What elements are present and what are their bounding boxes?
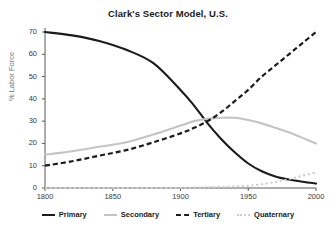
legend-swatch-primary bbox=[42, 214, 55, 216]
legend-swatch-secondary bbox=[104, 214, 117, 216]
series-line-quaternary bbox=[45, 172, 316, 188]
legend-item-secondary[interactable]: Secondary bbox=[104, 210, 159, 219]
legend-item-primary[interactable]: Primary bbox=[42, 210, 87, 219]
legend-item-quaternary[interactable]: Quaternary bbox=[237, 210, 294, 219]
legend-label-primary: Primary bbox=[59, 210, 87, 219]
chart-legend: Primary Secondary Tertiary Quaternary bbox=[0, 210, 336, 219]
chart-container: Clark's Sector Model, U.S. % Labor Force… bbox=[0, 0, 336, 236]
axes bbox=[42, 28, 316, 191]
series-lines bbox=[45, 32, 316, 188]
legend-item-tertiary[interactable]: Tertiary bbox=[176, 210, 220, 219]
legend-swatch-tertiary bbox=[176, 214, 189, 216]
series-line-tertiary bbox=[45, 32, 316, 166]
series-line-primary bbox=[45, 32, 316, 184]
legend-swatch-quaternary bbox=[237, 214, 250, 216]
legend-label-secondary: Secondary bbox=[121, 210, 159, 219]
series-line-secondary bbox=[45, 118, 316, 155]
legend-label-tertiary: Tertiary bbox=[193, 210, 220, 219]
legend-label-quaternary: Quaternary bbox=[254, 210, 294, 219]
plot-area bbox=[0, 0, 336, 236]
